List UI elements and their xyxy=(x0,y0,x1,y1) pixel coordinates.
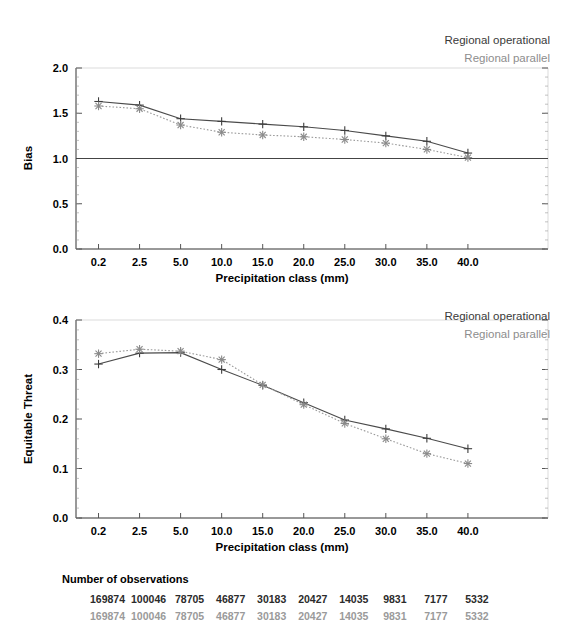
chart-canvas: 0.00.51.01.52.00.22.55.010.015.020.025.0… xyxy=(0,0,576,642)
observations-value-operational: 78705 xyxy=(175,593,204,605)
y-tick-label: 0.3 xyxy=(53,364,68,376)
marker-parallel xyxy=(423,145,431,153)
axis-frame xyxy=(76,320,548,518)
y-tick-label: 0.1 xyxy=(53,463,68,475)
x-tick-label: 2.5 xyxy=(132,525,147,537)
y-tick-label: 2.0 xyxy=(53,62,68,74)
equitable-threat-chart: 0.00.10.20.30.40.22.55.010.015.020.025.0… xyxy=(22,310,550,553)
legend-parallel: Regional parallel xyxy=(464,328,550,340)
x-tick-label: 10.0 xyxy=(211,525,232,537)
observations-value-operational: 5332 xyxy=(465,593,489,605)
marker-parallel xyxy=(258,381,266,389)
marker-operational xyxy=(382,132,390,140)
cut-off-title xyxy=(248,0,368,8)
x-tick-label: 30.0 xyxy=(375,256,396,268)
x-tick-label: 35.0 xyxy=(416,256,437,268)
marker-operational xyxy=(423,434,431,442)
y-tick-label: 1.5 xyxy=(53,107,68,119)
x-axis-title: Precipitation class (mm) xyxy=(216,541,349,553)
x-tick-label: 20.0 xyxy=(293,256,314,268)
x-tick-label: 15.0 xyxy=(252,525,273,537)
observations-value-operational: 20427 xyxy=(298,593,327,605)
x-axis-title: Precipitation class (mm) xyxy=(216,272,349,284)
marker-operational xyxy=(464,445,472,453)
marker-parallel xyxy=(135,345,143,353)
series-line-operational xyxy=(99,353,468,449)
x-tick-label: 35.0 xyxy=(416,525,437,537)
marker-operational xyxy=(217,117,225,125)
y-axis-title: Bias xyxy=(22,146,34,170)
marker-parallel xyxy=(464,153,472,161)
y-tick-label: 0.0 xyxy=(53,512,68,524)
y-tick-label: 0.0 xyxy=(53,243,68,255)
series-line-parallel xyxy=(99,106,468,158)
legend-operational: Regional operational xyxy=(445,310,551,322)
observations-value-parallel: 30183 xyxy=(257,610,286,622)
x-tick-label: 5.0 xyxy=(173,256,188,268)
x-tick-label: 0.2 xyxy=(91,525,106,537)
marker-parallel xyxy=(341,135,349,143)
observations-value-parallel: 100046 xyxy=(131,610,166,622)
y-tick-label: 0.5 xyxy=(53,198,68,210)
marker-parallel xyxy=(94,349,102,357)
marker-operational xyxy=(382,425,390,433)
observations-value-operational: 9831 xyxy=(383,593,407,605)
marker-parallel xyxy=(382,139,390,147)
marker-operational xyxy=(300,123,308,131)
marker-parallel xyxy=(464,459,472,467)
x-tick-label: 15.0 xyxy=(252,256,273,268)
observations-title: Number of observations xyxy=(62,573,189,585)
observations-value-parallel: 9831 xyxy=(383,610,407,622)
observations-value-operational: 100046 xyxy=(131,593,166,605)
x-tick-label: 40.0 xyxy=(457,525,478,537)
x-tick-label: 25.0 xyxy=(334,525,355,537)
observations-value-parallel: 169874 xyxy=(90,610,125,622)
y-tick-label: 1.0 xyxy=(53,153,68,165)
marker-parallel xyxy=(258,131,266,139)
marker-parallel xyxy=(217,128,225,136)
marker-parallel xyxy=(217,355,225,363)
x-tick-label: 20.0 xyxy=(293,525,314,537)
x-tick-label: 25.0 xyxy=(334,256,355,268)
observations-value-parallel: 5332 xyxy=(465,610,489,622)
marker-operational xyxy=(341,126,349,134)
series-line-parallel xyxy=(99,349,468,463)
observations-block: Number of observations169874100046787054… xyxy=(62,573,489,622)
figure-container: 0.00.51.01.52.00.22.55.010.015.020.025.0… xyxy=(0,0,576,642)
observations-value-operational: 169874 xyxy=(90,593,125,605)
marker-operational xyxy=(217,365,225,373)
marker-parallel xyxy=(300,400,308,408)
marker-operational xyxy=(258,120,266,128)
series-line-operational xyxy=(99,101,468,153)
marker-parallel xyxy=(176,347,184,355)
x-tick-label: 0.2 xyxy=(91,256,106,268)
observations-value-parallel: 14035 xyxy=(339,610,368,622)
y-axis-title: Equitable Threat xyxy=(22,374,34,464)
y-tick-label: 0.2 xyxy=(53,413,68,425)
marker-parallel xyxy=(94,102,102,110)
x-tick-label: 10.0 xyxy=(211,256,232,268)
observations-value-parallel: 78705 xyxy=(175,610,204,622)
observations-value-operational: 7177 xyxy=(424,593,448,605)
marker-operational xyxy=(423,137,431,145)
marker-parallel xyxy=(423,449,431,457)
y-tick-label: 0.4 xyxy=(53,314,69,326)
x-tick-label: 2.5 xyxy=(132,256,147,268)
legend-operational: Regional operational xyxy=(445,34,551,46)
marker-parallel xyxy=(382,435,390,443)
marker-operational xyxy=(94,360,102,368)
observations-value-parallel: 20427 xyxy=(298,610,327,622)
x-tick-label: 5.0 xyxy=(173,525,188,537)
x-tick-label: 40.0 xyxy=(457,256,478,268)
x-tick-label: 30.0 xyxy=(375,525,396,537)
marker-parallel xyxy=(135,105,143,113)
axis-frame-light xyxy=(76,320,548,518)
marker-parallel xyxy=(176,121,184,129)
observations-value-parallel: 46877 xyxy=(216,610,245,622)
bias-chart: 0.00.51.01.52.00.22.55.010.015.020.025.0… xyxy=(22,34,550,284)
observations-value-operational: 30183 xyxy=(257,593,286,605)
observations-value-operational: 46877 xyxy=(216,593,245,605)
observations-value-operational: 14035 xyxy=(339,593,368,605)
marker-parallel xyxy=(300,133,308,141)
legend-parallel: Regional parallel xyxy=(464,52,550,64)
